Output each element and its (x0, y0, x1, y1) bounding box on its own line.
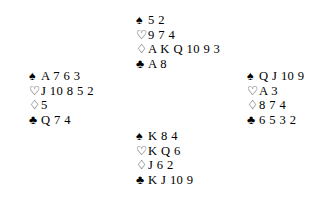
hand-north: ♠5 2 ♡9 7 4 ♢A K Q 10 9 3 ♣A 8 (136, 13, 220, 71)
hand-south: ♠K 8 4 ♡K Q 6 ♢J 6 2 ♣K J 10 9 (136, 129, 194, 187)
hand-west-clubs-row: ♣Q 7 4 (29, 113, 94, 128)
hand-east-diamonds-cards: 8 7 4 (259, 98, 286, 113)
hand-north-diamonds-row: ♢A K Q 10 9 3 (136, 42, 220, 57)
hand-east-spades-cards: Q J 10 9 (259, 69, 305, 84)
hand-east-hearts-cards: A 3 (259, 84, 278, 99)
hand-east-hearts-row: ♡A 3 (247, 84, 305, 99)
hand-south-clubs-cards: K J 10 9 (148, 173, 194, 188)
hand-east: ♠Q J 10 9 ♡A 3 ♢8 7 4 ♣6 5 3 2 (247, 69, 305, 127)
diamond-icon: ♢ (29, 98, 41, 113)
diamond-icon: ♢ (247, 98, 259, 113)
heart-icon: ♡ (29, 84, 41, 99)
hand-south-hearts-row: ♡K Q 6 (136, 144, 194, 159)
hand-east-clubs-cards: 6 5 3 2 (259, 113, 296, 128)
hand-north-hearts-cards: 9 7 4 (148, 28, 175, 43)
hand-south-diamonds-row: ♢J 6 2 (136, 158, 194, 173)
spade-icon: ♠ (29, 69, 41, 84)
hand-west-hearts-row: ♡J 10 8 5 2 (29, 84, 94, 99)
heart-icon: ♡ (247, 84, 259, 99)
club-icon: ♣ (247, 113, 259, 128)
club-icon: ♣ (136, 173, 148, 188)
hand-north-diamonds-cards: A K Q 10 9 3 (148, 42, 220, 57)
hand-north-hearts-row: ♡9 7 4 (136, 28, 220, 43)
hand-west-spades-row: ♠A 7 6 3 (29, 69, 94, 84)
hand-south-clubs-row: ♣K J 10 9 (136, 173, 194, 188)
diamond-icon: ♢ (136, 42, 148, 57)
spade-icon: ♠ (136, 129, 148, 144)
hand-north-spades-row: ♠5 2 (136, 13, 220, 28)
club-icon: ♣ (29, 113, 41, 128)
hand-east-diamonds-row: ♢8 7 4 (247, 98, 305, 113)
heart-icon: ♡ (136, 144, 148, 159)
hand-west-hearts-cards: J 10 8 5 2 (41, 84, 94, 99)
hand-west-spades-cards: A 7 6 3 (41, 69, 81, 84)
hand-south-spades-cards: K 8 4 (148, 129, 178, 144)
hand-west-diamonds-cards: 5 (41, 98, 48, 113)
hand-south-hearts-cards: K Q 6 (148, 144, 181, 159)
hand-east-clubs-row: ♣6 5 3 2 (247, 113, 305, 128)
club-icon: ♣ (136, 57, 148, 72)
hand-south-spades-row: ♠K 8 4 (136, 129, 194, 144)
bridge-deal-diagram: ♠5 2 ♡9 7 4 ♢A K Q 10 9 3 ♣A 8 ♠A 7 6 3 … (0, 0, 334, 202)
spade-icon: ♠ (136, 13, 148, 28)
hand-north-spades-cards: 5 2 (148, 13, 165, 28)
spade-icon: ♠ (247, 69, 259, 84)
hand-west: ♠A 7 6 3 ♡J 10 8 5 2 ♢5 ♣Q 7 4 (29, 69, 94, 127)
hand-north-clubs-cards: A 8 (148, 57, 167, 72)
hand-west-diamonds-row: ♢5 (29, 98, 94, 113)
diamond-icon: ♢ (136, 158, 148, 173)
heart-icon: ♡ (136, 28, 148, 43)
hand-west-clubs-cards: Q 7 4 (41, 113, 71, 128)
hand-south-diamonds-cards: J 6 2 (148, 158, 174, 173)
hand-north-clubs-row: ♣A 8 (136, 57, 220, 72)
hand-east-spades-row: ♠Q J 10 9 (247, 69, 305, 84)
